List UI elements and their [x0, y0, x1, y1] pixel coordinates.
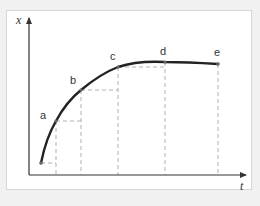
point-c-marker [116, 65, 119, 68]
diagram-canvas: a b c d e x t [0, 0, 260, 206]
point-a-label: a [40, 109, 47, 121]
point-start-marker [39, 161, 43, 165]
point-b-label: b [70, 74, 76, 86]
point-d-marker [163, 60, 166, 63]
point-a-marker [54, 119, 57, 122]
point-e-label: e [214, 46, 220, 58]
point-e-marker [216, 62, 220, 66]
point-c-label: c [110, 50, 116, 62]
growth-curve [41, 62, 218, 163]
point-b-marker [79, 88, 82, 91]
growth-curve-diagram: a b c d e x t [0, 0, 260, 206]
x-axis-label: t [240, 179, 244, 193]
dashed-guides [41, 62, 218, 175]
point-d-label: d [160, 45, 166, 57]
point-markers [39, 60, 220, 164]
y-axis-label: x [15, 13, 22, 27]
